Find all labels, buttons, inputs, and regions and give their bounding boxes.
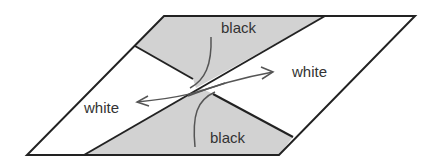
label-left-white: white: [83, 99, 119, 116]
label-right-white: white: [291, 63, 327, 80]
parallelogram-diagram: black black white white: [0, 0, 438, 166]
label-bottom-black: black: [210, 129, 246, 146]
label-top-black: black: [221, 19, 257, 36]
